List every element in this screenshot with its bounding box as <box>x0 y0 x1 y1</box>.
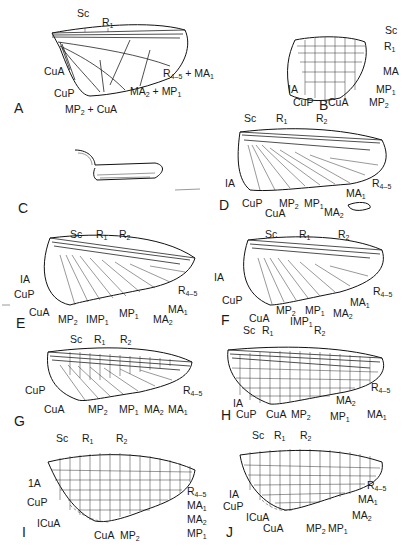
wing-venation-figure <box>0 0 403 547</box>
wing-E-drawing <box>44 235 195 305</box>
label-R2: R2 <box>314 325 326 339</box>
label-R45: R4–5 <box>178 285 197 299</box>
label-R2: R2 <box>119 229 131 243</box>
label-CuA: CuA <box>44 404 64 415</box>
label-Sc: Sc <box>265 229 277 240</box>
label-R45: R4–5 <box>183 385 202 399</box>
label-CuA: CuA <box>249 313 269 324</box>
label-IA: IA <box>20 274 30 285</box>
label-MA2: MA2 <box>352 510 372 524</box>
label-Sc: Sc <box>77 8 89 19</box>
label-R2: R2 <box>338 229 350 243</box>
label-MA2-MP1: MA2 + MP1 <box>130 86 181 100</box>
label-CuP: CuP <box>222 295 242 306</box>
wing-B-drawing <box>288 37 367 101</box>
label-MA2: MA2 <box>144 404 164 418</box>
label-R45: R4–5 <box>372 178 391 192</box>
label-MP1: MP1 <box>119 308 139 322</box>
wing-C-drawing <box>75 150 200 190</box>
label-CuP: CuP <box>14 289 34 300</box>
label-CuP: CuP <box>27 497 47 508</box>
label-R2: R2 <box>300 430 312 444</box>
label-ICuA: ICuA <box>37 518 60 529</box>
label-R1: R1 <box>96 229 108 243</box>
label-R1: R1 <box>102 17 114 31</box>
wing-I-drawing <box>48 453 195 522</box>
label-Sc: Sc <box>243 325 255 336</box>
label-Sc: Sc <box>244 113 256 124</box>
panel-letter-A: A <box>14 101 23 115</box>
label-MA: MA <box>383 66 399 77</box>
label-MP2: MP2 <box>306 523 326 537</box>
label-R45: R4–5 <box>187 486 206 500</box>
label-R1: R1 <box>94 334 106 348</box>
label-R45: R4–5 <box>373 286 392 300</box>
label-MP1: MP1 <box>328 523 348 537</box>
label-R1: R1 <box>299 229 311 243</box>
label-IMP1: IMP1 <box>86 314 109 328</box>
wing-F-drawing <box>244 237 384 305</box>
label-MP2: MP2 <box>120 530 140 544</box>
label-MA2: MA2 <box>336 395 356 409</box>
label-MP1: MP1 <box>119 404 139 418</box>
label-MA2: MA2 <box>324 207 344 221</box>
label-IMP1: IMP1 <box>290 316 313 330</box>
label-Sc: Sc <box>70 334 82 345</box>
panel-letter-I: I <box>22 525 26 539</box>
panel-letter-H: H <box>221 408 231 422</box>
label-MA1: MA1 <box>358 494 378 508</box>
label-MA1: MA1 <box>168 404 188 418</box>
label-IA: IA <box>214 272 224 283</box>
label-CuA: CuA <box>263 523 283 534</box>
label-CuA: CuA <box>94 530 114 541</box>
label-MA2: MA2 <box>333 308 353 322</box>
label-CuP: CuP <box>242 198 262 209</box>
panel-letter-C: C <box>18 201 28 215</box>
label-MA1: MA1 <box>187 500 207 514</box>
label-R1: R1 <box>274 430 286 444</box>
label-R2: R2 <box>316 113 328 127</box>
label-CuA: CuA <box>44 66 64 77</box>
wing-H-drawing <box>228 347 384 404</box>
panel-letter-J: J <box>226 525 233 539</box>
label-Sc: Sc <box>252 430 264 441</box>
label-R1: R1 <box>82 433 94 447</box>
label-MA2: MA2 <box>153 314 173 328</box>
label-R1: R1 <box>276 113 288 127</box>
label-R2: R2 <box>116 433 128 447</box>
label-CuA: CuA <box>29 307 49 318</box>
label-MA2: MA2 <box>187 514 207 528</box>
label-IA: IA <box>288 84 298 95</box>
label-R1: R1 <box>384 41 396 55</box>
label-CuP: CuP <box>293 97 313 108</box>
label-CuA: CuA <box>266 409 286 420</box>
label-MA1: MA1 <box>350 297 370 311</box>
label-CuP: CuP <box>54 88 74 99</box>
label-MP2: MP2 <box>88 404 108 418</box>
panel-letter-D: D <box>219 198 229 212</box>
panel-letter-G: G <box>14 414 25 428</box>
label-MP2: MP2 <box>291 409 311 423</box>
panel-letter-B: B <box>319 98 328 112</box>
label-R45-MA1: R4–5 + MA1 <box>163 68 214 82</box>
label-R45: R4–5 <box>371 382 390 396</box>
label-IA: IA <box>225 178 235 189</box>
label-CuP: CuP <box>223 501 243 512</box>
label-R2: R2 <box>120 334 132 348</box>
label-MP1: MP1 <box>330 411 350 425</box>
label-MA1: MA1 <box>346 188 366 202</box>
label-R1: R1 <box>262 325 274 339</box>
label-MA1: MA1 <box>367 409 387 423</box>
label-IA: IA <box>229 489 239 500</box>
wing-G-drawing <box>47 348 192 401</box>
label-R45: R4–5 <box>367 480 386 494</box>
label-CuP: CuP <box>25 385 45 396</box>
label-MP1: MP1 <box>187 528 207 542</box>
label-MP1: MP1 <box>304 198 324 212</box>
label-1A: 1A <box>28 478 41 489</box>
label-MP2: MP2 <box>369 97 389 111</box>
panel-letter-E: E <box>16 316 25 330</box>
label-Sc: Sc <box>385 25 397 36</box>
label-CuA: CuA <box>265 208 285 219</box>
label-MP2: MP2 <box>58 314 78 328</box>
